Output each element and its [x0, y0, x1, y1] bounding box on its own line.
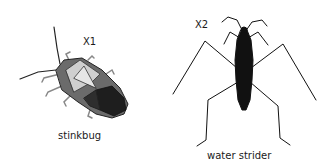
- stinkbug-illustration: [20, 27, 128, 118]
- magnification-label-x1: X1: [83, 36, 96, 47]
- caption-water-strider: water strider: [207, 150, 271, 161]
- water-strider-illustration: [173, 17, 316, 146]
- magnification-label-x2: X2: [195, 19, 208, 30]
- insect-illustrations: [0, 0, 331, 168]
- caption-stinkbug: stinkbug: [58, 130, 101, 141]
